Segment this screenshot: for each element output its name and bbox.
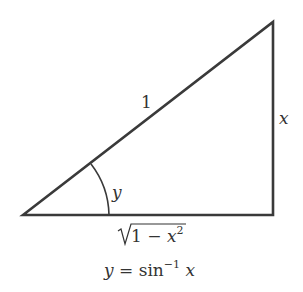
triangle-shape	[23, 22, 273, 215]
caption: y = sin−1 x	[104, 262, 195, 279]
caption-var: x	[180, 260, 195, 280]
angle-label: y	[112, 184, 122, 201]
triangle-graphic	[0, 0, 303, 292]
adjacent-label: 1 − x2	[131, 228, 183, 245]
adjacent-radicand: 1 −	[131, 226, 167, 246]
angle-arc	[91, 164, 109, 215]
caption-exp: −1	[164, 258, 180, 271]
triangle-diagram: 1 x y 1 − x2 y = sin−1 x	[0, 0, 303, 292]
hypotenuse-label: 1	[141, 94, 152, 111]
caption-eq: = sin	[114, 260, 164, 280]
opposite-label: x	[279, 110, 289, 127]
adjacent-exp: 2	[176, 224, 183, 237]
caption-lhs: y	[104, 260, 114, 280]
